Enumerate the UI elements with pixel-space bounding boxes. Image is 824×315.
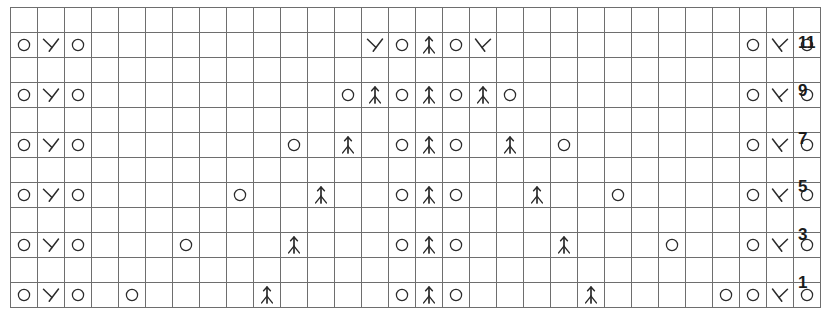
chart-cell-empty[interactable] (740, 58, 767, 83)
chart-cell-empty[interactable] (524, 258, 551, 283)
chart-cell-empty[interactable] (335, 8, 362, 33)
chart-cell-empty[interactable] (713, 158, 740, 183)
chart-cell-symbol[interactable] (443, 233, 470, 258)
chart-cell-empty[interactable] (254, 133, 281, 158)
chart-cell-empty[interactable] (524, 158, 551, 183)
chart-cell-empty[interactable] (470, 158, 497, 183)
chart-cell-symbol[interactable] (497, 133, 524, 158)
chart-cell-empty[interactable] (443, 258, 470, 283)
chart-cell-empty[interactable] (470, 208, 497, 233)
chart-cell-empty[interactable] (254, 258, 281, 283)
chart-cell-empty[interactable] (119, 183, 146, 208)
chart-cell-empty[interactable] (578, 133, 605, 158)
chart-cell-empty[interactable] (551, 208, 578, 233)
chart-cell-empty[interactable] (416, 108, 443, 133)
chart-cell-empty[interactable] (119, 108, 146, 133)
chart-cell-symbol[interactable] (38, 33, 65, 58)
chart-cell-empty[interactable] (65, 158, 92, 183)
chart-cell-empty[interactable] (200, 133, 227, 158)
chart-cell-empty[interactable] (281, 158, 308, 183)
chart-cell-symbol[interactable] (11, 233, 38, 258)
chart-cell-empty[interactable] (146, 183, 173, 208)
chart-cell-symbol[interactable] (497, 83, 524, 108)
chart-cell-empty[interactable] (767, 208, 794, 233)
chart-cell-empty[interactable] (281, 58, 308, 83)
chart-cell-empty[interactable] (767, 8, 794, 33)
chart-cell-empty[interactable] (200, 58, 227, 83)
chart-cell-symbol[interactable] (443, 33, 470, 58)
chart-cell-symbol[interactable] (443, 133, 470, 158)
chart-cell-symbol[interactable] (470, 33, 497, 58)
chart-cell-symbol[interactable] (362, 33, 389, 58)
chart-cell-empty[interactable] (659, 133, 686, 158)
chart-cell-symbol[interactable] (119, 283, 146, 308)
chart-cell-empty[interactable] (254, 83, 281, 108)
chart-cell-symbol[interactable] (470, 83, 497, 108)
chart-cell-empty[interactable] (578, 33, 605, 58)
chart-cell-empty[interactable] (65, 8, 92, 33)
chart-cell-empty[interactable] (551, 283, 578, 308)
chart-cell-symbol[interactable] (65, 33, 92, 58)
chart-cell-empty[interactable] (254, 208, 281, 233)
chart-cell-empty[interactable] (146, 133, 173, 158)
chart-cell-symbol[interactable] (11, 183, 38, 208)
chart-cell-empty[interactable] (92, 183, 119, 208)
chart-cell-empty[interactable] (740, 258, 767, 283)
chart-cell-empty[interactable] (443, 58, 470, 83)
chart-cell-empty[interactable] (470, 183, 497, 208)
chart-cell-empty[interactable] (92, 283, 119, 308)
chart-cell-empty[interactable] (497, 33, 524, 58)
chart-cell-empty[interactable] (92, 258, 119, 283)
chart-cell-empty[interactable] (200, 258, 227, 283)
chart-cell-empty[interactable] (119, 258, 146, 283)
chart-cell-empty[interactable] (389, 208, 416, 233)
chart-cell-symbol[interactable] (38, 183, 65, 208)
chart-cell-empty[interactable] (632, 133, 659, 158)
chart-cell-empty[interactable] (551, 33, 578, 58)
chart-cell-empty[interactable] (551, 83, 578, 108)
chart-cell-empty[interactable] (659, 8, 686, 33)
chart-cell-empty[interactable] (200, 33, 227, 58)
chart-cell-empty[interactable] (227, 233, 254, 258)
chart-cell-empty[interactable] (659, 108, 686, 133)
chart-cell-empty[interactable] (578, 208, 605, 233)
chart-cell-empty[interactable] (740, 8, 767, 33)
chart-cell-empty[interactable] (416, 158, 443, 183)
chart-cell-empty[interactable] (767, 58, 794, 83)
chart-cell-empty[interactable] (308, 108, 335, 133)
chart-cell-empty[interactable] (119, 208, 146, 233)
chart-cell-empty[interactable] (146, 83, 173, 108)
chart-cell-symbol[interactable] (173, 233, 200, 258)
chart-cell-empty[interactable] (362, 183, 389, 208)
chart-cell-empty[interactable] (173, 133, 200, 158)
chart-cell-empty[interactable] (146, 58, 173, 83)
chart-cell-empty[interactable] (362, 108, 389, 133)
chart-cell-empty[interactable] (551, 258, 578, 283)
chart-cell-empty[interactable] (524, 283, 551, 308)
chart-cell-empty[interactable] (470, 108, 497, 133)
chart-cell-symbol[interactable] (38, 283, 65, 308)
chart-cell-empty[interactable] (227, 208, 254, 233)
chart-cell-symbol[interactable] (308, 183, 335, 208)
chart-cell-symbol[interactable] (416, 133, 443, 158)
chart-cell-empty[interactable] (605, 158, 632, 183)
chart-cell-empty[interactable] (65, 208, 92, 233)
chart-cell-empty[interactable] (362, 283, 389, 308)
chart-cell-empty[interactable] (524, 33, 551, 58)
chart-cell-empty[interactable] (605, 133, 632, 158)
chart-cell-empty[interactable] (146, 8, 173, 33)
chart-cell-symbol[interactable] (65, 83, 92, 108)
chart-cell-empty[interactable] (308, 8, 335, 33)
chart-cell-symbol[interactable] (65, 133, 92, 158)
chart-cell-empty[interactable] (740, 208, 767, 233)
chart-cell-symbol[interactable] (389, 33, 416, 58)
chart-cell-empty[interactable] (632, 258, 659, 283)
chart-cell-empty[interactable] (38, 258, 65, 283)
chart-cell-empty[interactable] (119, 58, 146, 83)
chart-cell-empty[interactable] (659, 208, 686, 233)
chart-cell-symbol[interactable] (11, 283, 38, 308)
chart-cell-empty[interactable] (524, 208, 551, 233)
chart-cell-symbol[interactable] (605, 183, 632, 208)
chart-cell-empty[interactable] (686, 58, 713, 83)
chart-cell-symbol[interactable] (254, 283, 281, 308)
